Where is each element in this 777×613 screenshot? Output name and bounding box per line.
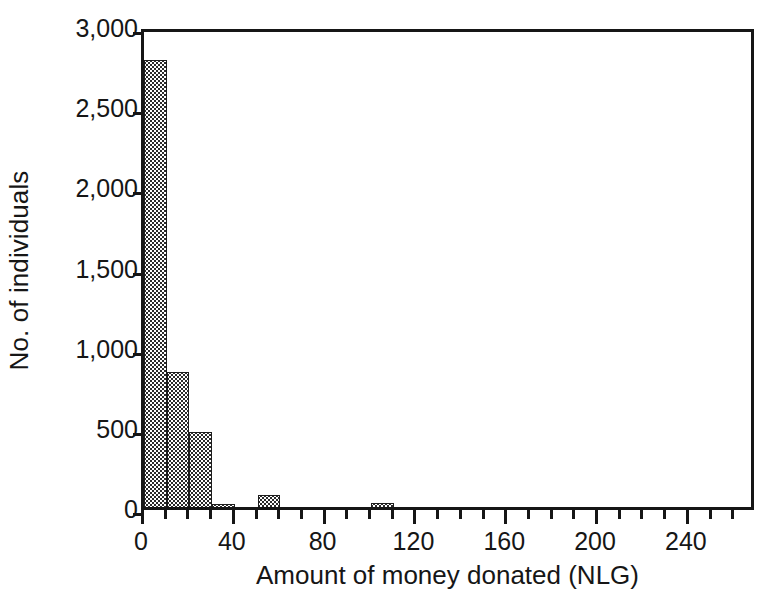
x-axis-tick-label: 40 — [218, 526, 246, 556]
histogram-bar — [144, 60, 167, 507]
y-axis-tick-label: 1,000 — [42, 337, 138, 362]
x-axis-tick-minor — [640, 510, 643, 519]
y-axis-tick — [133, 433, 144, 436]
x-axis-tick-minor — [527, 510, 530, 519]
x-axis-tick-label: 160 — [483, 526, 525, 556]
x-axis-tick-major — [413, 510, 416, 524]
x-axis-tick-label: 240 — [665, 526, 707, 556]
x-axis-tick-minor — [618, 510, 621, 519]
x-axis-tick-label: 80 — [309, 526, 337, 556]
x-axis-tick-label: 120 — [393, 526, 435, 556]
x-axis-tick-label: 0 — [134, 526, 148, 556]
y-axis-tick-label: 2,500 — [42, 96, 138, 121]
y-axis-tick-labels: 05001,0001,5002,0002,5003,000 — [42, 0, 138, 613]
x-axis-tick-label: 200 — [574, 526, 616, 556]
x-axis-tick-major — [595, 510, 598, 524]
y-axis-tick-label: 1,500 — [42, 257, 138, 282]
y-axis-tick — [133, 192, 144, 195]
histogram-bar — [189, 432, 212, 507]
y-axis-tick-label: 0 — [42, 497, 138, 522]
x-axis-tick-minor — [368, 510, 371, 519]
histogram-bar — [212, 504, 235, 507]
x-axis-tick-minor — [391, 510, 394, 519]
x-axis-tick-minor — [164, 510, 167, 519]
histogram-figure: No. of individuals 05001,0001,5002,0002,… — [0, 0, 777, 613]
x-axis-tick-minor — [300, 510, 303, 519]
histogram-bar — [258, 495, 281, 507]
y-axis-title: No. of individuals — [0, 0, 40, 540]
x-axis-tick-minor — [731, 510, 734, 519]
x-axis-tick-minor — [482, 510, 485, 519]
y-axis-tick — [133, 112, 144, 115]
x-axis-title: Amount of money donated (NLG) — [141, 560, 754, 591]
x-axis-tick-minor — [709, 510, 712, 519]
histogram-bar — [167, 372, 190, 507]
x-axis-tick-minor — [572, 510, 575, 519]
y-axis-title-text: No. of individuals — [5, 170, 36, 370]
plot-inner — [144, 32, 751, 507]
x-axis-tick-minor — [209, 510, 212, 519]
x-axis-tick-minor — [277, 510, 280, 519]
y-axis-tick-label: 500 — [42, 417, 138, 442]
x-axis-tick-minor — [345, 510, 348, 519]
y-axis-tick — [133, 273, 144, 276]
x-axis-tick-minor — [459, 510, 462, 519]
plot-area — [141, 29, 754, 510]
x-axis-tick-minor — [436, 510, 439, 519]
x-axis-tick-major — [686, 510, 689, 524]
x-axis-tick-minor — [550, 510, 553, 519]
x-axis-tick-major — [504, 510, 507, 524]
x-axis-tick-minor — [663, 510, 666, 519]
x-axis-tick-minor — [255, 510, 258, 519]
x-axis-tick-major — [323, 510, 326, 524]
x-axis-tick-major — [232, 510, 235, 524]
y-axis-tick-label: 2,000 — [42, 176, 138, 201]
y-axis-tick — [133, 353, 144, 356]
x-axis-tick-major — [141, 510, 144, 524]
x-axis-tick-minor — [186, 510, 189, 519]
histogram-bar — [371, 503, 394, 507]
y-axis-tick-label: 3,000 — [42, 16, 138, 41]
y-axis-tick — [133, 32, 144, 35]
x-axis-tick-labels: 04080120160200240 — [141, 526, 754, 560]
